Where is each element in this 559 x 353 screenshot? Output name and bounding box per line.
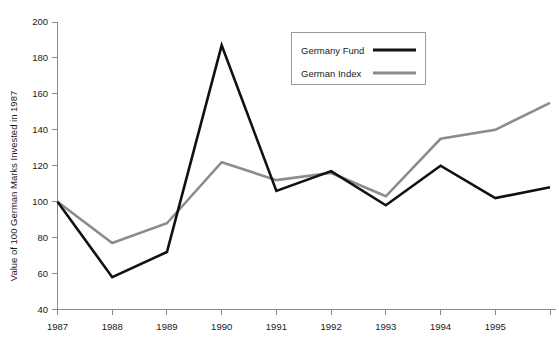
y-axis-ticks: 406080100120140160180200	[32, 16, 57, 315]
y-tick-label: 100	[32, 196, 48, 207]
x-axis-ticks: 198719881989199019911992199319941995	[47, 310, 550, 333]
legend-label: German Index	[301, 68, 361, 79]
y-tick-label: 160	[32, 88, 48, 99]
x-tick-label: 1990	[211, 321, 232, 332]
chart-canvas: Value of 100 German Marks Invested in 19…	[0, 0, 559, 353]
chart-legend: Germany FundGerman Index	[292, 33, 426, 85]
x-tick-label: 1991	[266, 321, 287, 332]
y-tick-label: 60	[37, 268, 48, 279]
legend-label: Germany Fund	[301, 45, 364, 56]
x-tick-label: 1988	[102, 321, 123, 332]
x-tick-label: 1993	[375, 321, 396, 332]
y-tick-label: 180	[32, 52, 48, 63]
x-tick-label: 1992	[321, 321, 342, 332]
x-tick-label: 1994	[430, 321, 451, 332]
x-tick-label: 1987	[47, 321, 68, 332]
y-tick-label: 120	[32, 160, 48, 171]
y-tick-label: 40	[37, 304, 48, 315]
y-axis-title: Value of 100 German Marks Invested in 19…	[8, 91, 19, 281]
series-line-german-index	[58, 103, 551, 243]
y-tick-label: 80	[37, 232, 48, 243]
line-chart: Value of 100 German Marks Invested in 19…	[0, 0, 559, 353]
x-tick-label: 1995	[485, 321, 506, 332]
y-tick-label: 140	[32, 124, 48, 135]
y-tick-label: 200	[32, 16, 48, 27]
x-tick-label: 1989	[156, 321, 177, 332]
